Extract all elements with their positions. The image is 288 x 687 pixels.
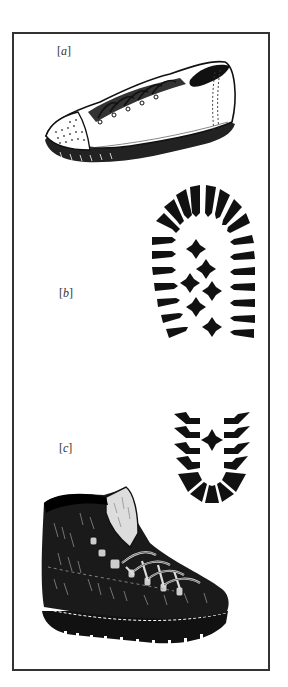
bracket-close: ] (68, 441, 72, 455)
hiking-boot-illustration (34, 483, 234, 653)
bracket-close: ] (69, 286, 73, 300)
sole-tread-b-illustration (150, 183, 258, 345)
panel-label-c: [c] (59, 441, 72, 456)
sneaker-illustration (40, 52, 240, 172)
panel-label-b: [b] (59, 286, 73, 301)
